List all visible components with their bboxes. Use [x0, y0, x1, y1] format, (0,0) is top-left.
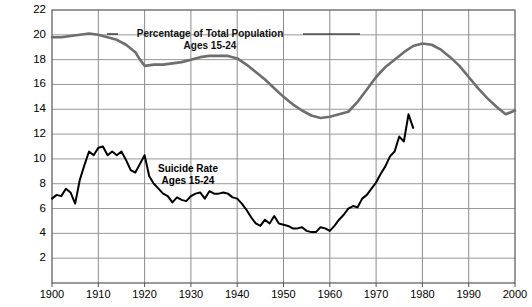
y-axis-tick-label: 22	[4, 4, 46, 16]
y-axis-tick-label: 16	[4, 78, 46, 90]
y-axis-tick-label: 2	[4, 252, 46, 264]
x-axis-tick-label: 1990	[446, 289, 492, 300]
annotation-suicide: Suicide Rate Ages 15-24	[128, 163, 248, 186]
x-axis-tick-label: 1930	[168, 289, 214, 300]
y-axis-tick-label: 20	[4, 29, 46, 41]
x-axis-tick-label: 1980	[399, 289, 445, 300]
x-axis-tick-label: 1960	[307, 289, 353, 300]
y-axis-tick-label: 14	[4, 103, 46, 115]
x-axis-tick-label: 1950	[261, 289, 307, 300]
annotation-suicide-line2: Ages 15-24	[128, 175, 248, 187]
x-axis-tick-label: 1940	[214, 289, 260, 300]
annotation-population-line2: Ages 15-24	[115, 40, 305, 52]
y-axis-tick-label: 4	[4, 227, 46, 239]
annotation-population-line1: Percentage of Total Population	[115, 28, 305, 40]
annotation-population: Percentage of Total Population Ages 15-2…	[115, 28, 305, 51]
x-axis-tick-label: 1920	[122, 289, 168, 300]
y-axis-tick-label: 8	[4, 178, 46, 190]
x-axis-tick-label: 1910	[75, 289, 121, 300]
x-axis-tick-label: 2000	[492, 289, 532, 300]
x-axis-tick-label: 1900	[29, 289, 75, 300]
annotation-suicide-line1: Suicide Rate	[128, 163, 248, 175]
y-axis-tick-label: 6	[4, 203, 46, 215]
y-axis-tick-labels: 246810121416182022	[0, 0, 46, 307]
x-axis-tick-labels: 1900191019201930194019501960197019801990…	[0, 289, 525, 305]
x-axis-tick-label: 1970	[353, 289, 399, 300]
y-axis-tick-label: 10	[4, 153, 46, 165]
y-axis-tick-label: 18	[4, 54, 46, 66]
y-axis-tick-label: 12	[4, 128, 46, 140]
